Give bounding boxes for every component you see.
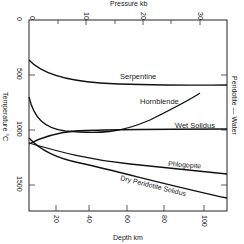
wet-solidus-label: Wet Solidus [175, 121, 215, 130]
depth-tick-60: 60 [124, 215, 131, 223]
serpentine-label: Serpentine [120, 72, 156, 81]
right-axis-label: Peridotite — Water [231, 76, 238, 136]
pressure-axis-label: Pressure kb [110, 0, 147, 7]
right-ticks [221, 75, 227, 185]
depth-tick-100: 100 [201, 215, 208, 227]
depth-tick-20: 20 [53, 215, 60, 223]
pressure-tick-30: 30 [197, 12, 204, 20]
temperature-ticks [29, 75, 35, 185]
wet-solidus-curve [29, 129, 227, 144]
pressure-tick-20: 20 [140, 12, 147, 20]
depth-tick-80: 80 [161, 215, 168, 223]
pressure-ticks [58, 20, 200, 25]
hornblende-label: Hornblende [140, 97, 179, 106]
depth-ticks [56, 205, 204, 211]
temp-tick-1500: 1500 [16, 176, 23, 192]
phase-diagram: Serpentine Hornblende Wet Solidus Phlogo… [0, 0, 244, 244]
pressure-tick-0: 0 [29, 16, 36, 20]
depth-axis-label: Depth km [113, 234, 143, 242]
temp-tick-0: 0 [16, 17, 23, 21]
depth-tick-40: 40 [86, 215, 93, 223]
phlogopite-curve [29, 143, 227, 174]
temp-tick-500: 500 [16, 68, 23, 80]
temp-tick-1000: 1000 [16, 121, 23, 137]
pressure-tick-10: 10 [83, 12, 90, 20]
temperature-axis-label: Temperature °C [1, 92, 9, 141]
